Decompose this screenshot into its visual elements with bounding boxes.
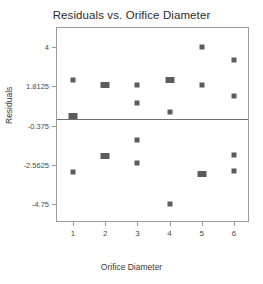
data-point [165, 77, 174, 83]
x-axis-tick-label: 5 [200, 229, 204, 238]
data-point [135, 83, 140, 88]
x-axis-tick [202, 221, 203, 226]
chart-title: Residuals vs. Orifice Diameter [0, 9, 263, 21]
x-axis-tick [105, 221, 106, 226]
y-axis-tick-label: 4 [45, 43, 49, 52]
x-axis-tick-label: 2 [103, 229, 107, 238]
data-point [71, 170, 76, 175]
y-axis-tick [52, 126, 57, 127]
data-point [71, 78, 76, 83]
x-axis-tick-label: 4 [167, 229, 171, 238]
y-axis-tick [52, 204, 57, 205]
residual-plot: Residuals vs. Orifice Diameter 41.8125-0… [0, 0, 263, 284]
data-point [231, 153, 236, 158]
plot-canvas: 41.8125-0.375-2.5625-4.75123456 [57, 28, 248, 221]
zero-reference-line [57, 119, 248, 120]
y-axis-tick-label: -4.75 [32, 199, 49, 208]
x-axis-tick [73, 221, 74, 226]
y-axis-tick [52, 47, 57, 48]
data-point [101, 82, 110, 88]
data-point [231, 57, 236, 62]
x-axis-tick [170, 221, 171, 226]
data-point [199, 83, 204, 88]
x-axis-tick [234, 221, 235, 226]
x-axis-tick-label: 6 [232, 229, 236, 238]
data-point [167, 109, 172, 114]
data-point [69, 113, 78, 119]
y-axis-tick [52, 86, 57, 87]
x-axis-tick-label: 3 [135, 229, 139, 238]
data-point [199, 45, 204, 50]
data-point [135, 161, 140, 166]
y-axis-title: Residuals [4, 87, 14, 124]
data-point [197, 171, 206, 177]
data-point [231, 169, 236, 174]
data-point [231, 93, 236, 98]
x-axis-tick [137, 221, 138, 226]
plot-area: 41.8125-0.375-2.5625-4.75123456 [56, 27, 249, 222]
data-point [135, 137, 140, 142]
y-axis-tick-label: -2.5625 [24, 160, 49, 169]
data-point [167, 201, 172, 206]
y-axis-tick-label: -0.375 [28, 121, 49, 130]
data-point [135, 101, 140, 106]
x-axis-title: Orifice Diameter [0, 262, 263, 272]
y-axis-tick [52, 165, 57, 166]
y-axis-tick-label: 1.8125 [26, 82, 49, 91]
data-point [101, 153, 110, 159]
x-axis-tick-label: 1 [71, 229, 75, 238]
